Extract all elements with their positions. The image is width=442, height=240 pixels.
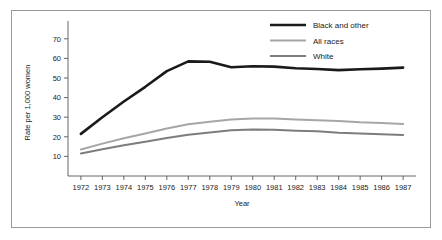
x-tick-label: 1985 <box>352 183 369 192</box>
line-chart: 1020304050607019721973197419751976197719… <box>12 11 430 227</box>
x-tick-label: 1977 <box>180 183 197 192</box>
x-tick-label: 1972 <box>73 183 90 192</box>
x-tick-label: 1973 <box>94 183 111 192</box>
x-tick-label: 1984 <box>330 183 347 192</box>
y-tick-label: 60 <box>53 54 61 63</box>
figure-frame: 1020304050607019721973197419751976197719… <box>11 10 431 228</box>
x-tick-label: 1976 <box>158 183 175 192</box>
y-tick-label: 40 <box>53 93 61 102</box>
x-tick-label: 1979 <box>223 183 240 192</box>
x-tick-label: 1981 <box>266 183 283 192</box>
y-tick-label: 50 <box>53 74 61 83</box>
y-tick-label: 10 <box>53 152 61 161</box>
legend-label-2: White <box>313 52 334 61</box>
y-axis-title: Rate per 1,000 women <box>23 65 32 141</box>
y-tick-label: 70 <box>53 35 61 44</box>
x-tick-label: 1978 <box>201 183 218 192</box>
x-tick-label: 1980 <box>244 183 261 192</box>
x-tick-label: 1986 <box>373 183 390 192</box>
x-axis-title: Year <box>234 199 250 208</box>
x-tick-label: 1983 <box>309 183 326 192</box>
x-tick-label: 1982 <box>287 183 304 192</box>
legend-label-0: Black and other <box>313 21 369 30</box>
x-tick-label: 1975 <box>137 183 154 192</box>
y-tick-label: 20 <box>53 133 61 142</box>
series-line-2 <box>81 130 403 154</box>
x-tick-label: 1974 <box>116 183 133 192</box>
legend-label-1: All races <box>313 37 344 46</box>
y-tick-label: 30 <box>53 113 61 122</box>
x-tick-label: 1987 <box>395 183 412 192</box>
series-line-0 <box>81 61 403 134</box>
